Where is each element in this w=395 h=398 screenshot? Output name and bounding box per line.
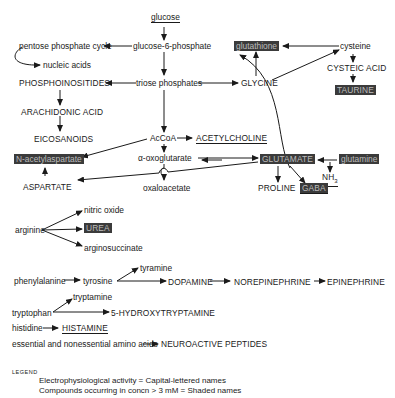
node-n-acetylaspartate: N-acetylaspartate <box>14 154 84 164</box>
node-glycine: GLYCINE <box>241 78 278 88</box>
nh3-subscript: 3 <box>334 178 337 184</box>
node-neuroactive-peptides: NEUROACTIVE PEPTIDES <box>161 339 267 349</box>
node-norepinephrine: NOREPINEPHRINE <box>234 277 311 287</box>
node-glucose-6-phosphate: glucose-6-phosphate <box>133 41 211 51</box>
node-glucose: glucose <box>151 12 180 23</box>
node-glutamate: GLUTAMATE <box>260 154 315 164</box>
node-acetylcholine: ACETYLCHOLINE <box>196 133 267 144</box>
node-nitric-oxide: nitric oxide <box>84 205 124 215</box>
node-gaba: GABA <box>300 183 328 194</box>
node-triose-phosphates: triose phosphates <box>136 78 202 88</box>
legend-title: LEGEND <box>12 367 38 377</box>
nh3-label: NH <box>322 172 334 182</box>
node-arginosuccinate: arginosuccinate <box>84 243 143 253</box>
node-nucleic-acids: nucleic acids <box>43 60 91 70</box>
node-dopamine: DOPAMINE <box>168 277 213 287</box>
node-alpha-oxoglutarate: α-oxoglutarate <box>138 153 192 163</box>
legend-line-shaded: Compounds occurring in concn > 3 mM = Sh… <box>39 386 241 396</box>
node-urea: UREA <box>84 223 112 233</box>
node-5-hydroxytryptamine: 5-HYDROXYTRYPTAMINE <box>111 308 215 318</box>
node-arginine: arginine <box>15 225 45 235</box>
node-eicosanoids: EICOSANOIDS <box>34 134 93 144</box>
node-tyramine: tyramine <box>140 263 172 273</box>
legend-line-capital: Electrophysiological activity = Capital-… <box>39 376 226 386</box>
node-cysteic-acid: CYSTEIC ACID <box>327 63 386 73</box>
node-histidine: histidine <box>12 323 43 333</box>
node-phosphoinositides: PHOSPHOINOSITIDES <box>19 78 110 88</box>
node-cysteine: cysteine <box>340 41 371 51</box>
node-epinephrine: EPINEPHRINE <box>327 277 385 287</box>
node-taurine: TAURINE <box>335 85 376 95</box>
node-phenylalanine: phenylalanine <box>14 276 66 286</box>
node-glutathione: glutathione <box>234 41 279 51</box>
node-arachidonic-acid: ARACHIDONIC ACID <box>21 107 103 117</box>
node-oxaloacetate: oxaloacetate <box>143 183 191 193</box>
neurochemical-pathway-diagram: glucose glucose-6-phosphate pentose phos… <box>0 0 395 398</box>
node-accoa: AcCoA <box>150 133 176 143</box>
node-tryptophan: tryptophan <box>12 308 52 318</box>
node-tyrosine: tyrosine <box>83 276 112 286</box>
node-tryptamine: tryptamine <box>73 292 112 302</box>
node-histamine: HISTAMINE <box>62 323 108 334</box>
node-aspartate: ASPARTATE <box>23 182 72 192</box>
node-glutamine: glutamine <box>339 154 379 164</box>
node-proline: PROLINE <box>258 183 295 193</box>
node-amino-acids: essential and nonessential amino acids <box>12 339 158 349</box>
node-pentose-phosphate-cycle: pentose phosphate cycle <box>19 41 112 51</box>
